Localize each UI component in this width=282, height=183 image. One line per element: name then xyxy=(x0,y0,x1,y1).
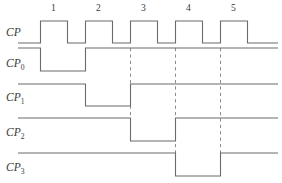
signal-label-cp2: CP2 xyxy=(6,126,25,141)
waveform-cp3 xyxy=(18,153,278,176)
cycle-number-1: 1 xyxy=(51,2,56,13)
timing-diagram-figure: 12345 CPCP0CP1CP2CP3 xyxy=(0,0,282,183)
signal-label-subscript-cp1: 1 xyxy=(21,97,25,106)
signal-label-subscript-cp2: 2 xyxy=(21,132,25,141)
signal-label-cp3: CP3 xyxy=(6,161,25,176)
cycle-number-2: 2 xyxy=(96,2,101,13)
waveform-cp xyxy=(18,21,278,43)
cycle-number-group: 12345 xyxy=(51,2,236,13)
signal-label-base-cp3: CP xyxy=(6,161,21,173)
signal-label-subscript-cp0: 0 xyxy=(21,63,25,72)
waveform-group xyxy=(18,21,278,176)
timing-diagram-canvas: 12345 CPCP0CP1CP2CP3 xyxy=(0,0,282,183)
cycle-number-3: 3 xyxy=(141,2,146,13)
signal-label-base-cp2: CP xyxy=(6,126,21,138)
cycle-number-5: 5 xyxy=(231,2,236,13)
signal-label-subscript-cp3: 3 xyxy=(21,167,25,176)
signal-label-base-cp: CP xyxy=(6,26,21,38)
signal-label-cp: CP xyxy=(6,26,21,38)
signal-label-cp0: CP0 xyxy=(6,57,25,72)
signal-label-base-cp1: CP xyxy=(6,91,21,103)
waveform-cp2 xyxy=(18,118,278,141)
waveform-cp0 xyxy=(18,48,278,71)
signal-label-base-cp0: CP xyxy=(6,57,21,69)
waveform-cp1 xyxy=(18,84,278,106)
signal-label-cp1: CP1 xyxy=(6,91,25,106)
cycle-number-4: 4 xyxy=(186,2,191,13)
